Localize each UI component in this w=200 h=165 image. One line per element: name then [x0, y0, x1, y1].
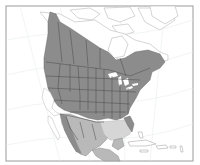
range-map-svg: [0, 0, 200, 165]
range-map: [0, 0, 200, 165]
